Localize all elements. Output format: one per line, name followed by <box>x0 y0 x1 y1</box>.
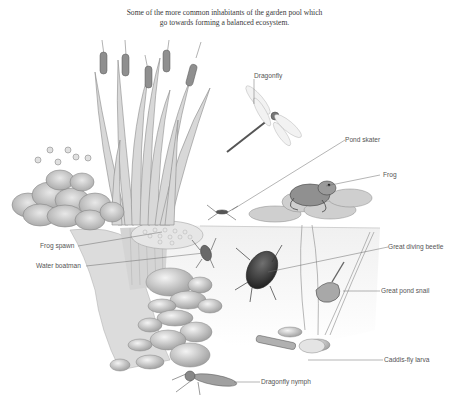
marsh-plant <box>12 170 124 230</box>
cattail-heads <box>100 40 201 88</box>
label-great-pond-snail: Great pond snail <box>381 287 429 295</box>
label-dragonfly-nymph: Dragonfly nymph <box>261 378 311 386</box>
pond-skater-figure <box>207 205 238 220</box>
dragonfly-figure <box>227 83 304 152</box>
label-great-diving-beetle: Great diving beetle <box>388 243 443 251</box>
label-pond-skater: Pond skater <box>345 136 380 144</box>
label-frog: Frog <box>383 171 397 179</box>
pond-illustration <box>0 0 449 395</box>
marsh-flowers <box>35 147 91 165</box>
label-water-boatman: Water boatman <box>36 262 81 270</box>
label-caddis-fly-larva: Caddis-fly larva <box>384 356 429 364</box>
label-frog-spawn: Frog spawn <box>40 242 74 250</box>
label-dragonfly: Dragonfly <box>254 72 282 80</box>
dragonfly-nymph-figure <box>172 371 238 395</box>
